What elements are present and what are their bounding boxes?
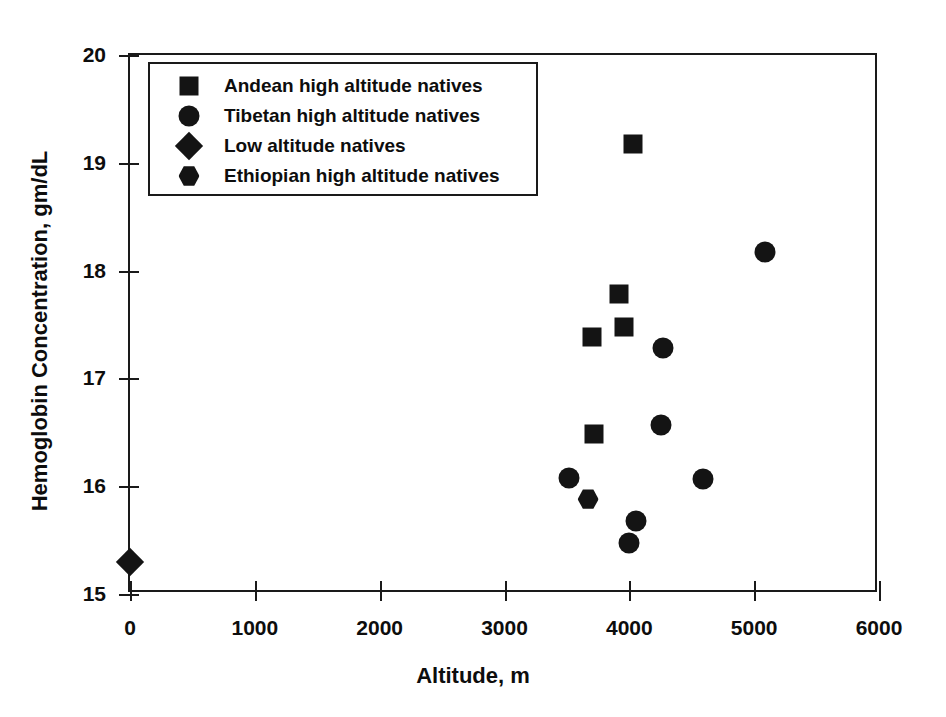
y-axis-tick-inner <box>130 378 139 380</box>
data-point-circle <box>653 338 674 359</box>
x-axis-tick-inner <box>505 581 507 590</box>
x-axis-tick-label: 2000 <box>356 616 403 640</box>
x-axis-title: Altitude, m <box>0 663 946 689</box>
y-axis-tick <box>119 594 130 596</box>
y-axis-tick-label: 17 <box>83 366 106 390</box>
legend-item[interactable]: Tibetan high altitude natives <box>150 101 536 131</box>
legend-marker-diamond-icon <box>176 133 202 159</box>
y-axis-tick-label: 15 <box>83 582 106 606</box>
legend-item[interactable]: Andean high altitude natives <box>150 71 536 101</box>
legend-marker-circle-icon <box>176 103 202 129</box>
y-axis-tick <box>119 378 130 380</box>
x-axis-tick-inner <box>754 581 756 590</box>
data-point-square <box>582 328 601 347</box>
data-point-circle <box>559 467 580 488</box>
y-axis-tick <box>119 163 130 165</box>
chart-legend: Andean high altitude nativesTibetan high… <box>148 62 538 196</box>
hexagon-icon <box>179 166 200 187</box>
x-axis-tick <box>754 590 756 601</box>
x-axis-tick <box>879 590 881 601</box>
legend-item-label: Andean high altitude natives <box>224 75 483 97</box>
x-axis-tick-label: 0 <box>124 616 136 640</box>
circle-icon <box>179 106 200 127</box>
data-point-square <box>624 135 643 154</box>
y-axis-tick-inner <box>130 55 139 57</box>
y-axis-tick-inner <box>130 163 139 165</box>
data-point-square <box>585 425 604 444</box>
y-axis-tick-inner <box>130 486 139 488</box>
x-axis-tick-inner <box>879 581 881 590</box>
data-point-circle <box>619 533 640 554</box>
data-point-circle <box>755 242 776 263</box>
x-axis-tick <box>130 590 132 601</box>
data-point-hexagon <box>578 489 599 510</box>
legend-item-label: Low altitude natives <box>224 135 406 157</box>
data-point-circle <box>625 510 646 531</box>
scatter-chart-figure: 1516171819200100020003000400050006000 He… <box>0 0 946 717</box>
y-axis-tick-label: 18 <box>83 259 106 283</box>
data-point-diamond <box>116 548 144 576</box>
x-axis-tick <box>629 590 631 601</box>
legend-item[interactable]: Low altitude natives <box>150 131 536 161</box>
y-axis-tick <box>119 486 130 488</box>
y-axis-tick <box>119 271 130 273</box>
data-point-square <box>609 285 628 304</box>
data-point-circle <box>650 414 671 435</box>
y-axis-tick-label: 20 <box>83 43 106 67</box>
legend-item-label: Tibetan high altitude natives <box>224 105 480 127</box>
y-axis-tick-label: 19 <box>83 151 106 175</box>
x-axis-tick-inner <box>130 581 132 590</box>
legend-marker-square-icon <box>176 73 202 99</box>
x-axis-tick-inner <box>255 581 257 590</box>
x-axis-tick <box>255 590 257 601</box>
legend-marker-hexagon-icon <box>176 163 202 189</box>
x-axis-tick <box>505 590 507 601</box>
y-axis-tick-label: 16 <box>83 474 106 498</box>
x-axis-tick-label: 6000 <box>856 616 903 640</box>
data-point-circle <box>692 468 713 489</box>
x-axis-tick-label: 5000 <box>731 616 778 640</box>
x-axis-tick-label: 4000 <box>606 616 653 640</box>
diamond-icon <box>175 132 203 160</box>
square-icon <box>180 77 199 96</box>
y-axis-tick <box>119 55 130 57</box>
x-axis-tick <box>380 590 382 601</box>
x-axis-tick-label: 1000 <box>231 616 278 640</box>
legend-item-label: Ethiopian high altitude natives <box>224 165 500 187</box>
x-axis-tick-inner <box>629 581 631 590</box>
y-axis-title: Hemoglobin Concentration, gm/dL <box>27 51 53 611</box>
legend-item[interactable]: Ethiopian high altitude natives <box>150 161 536 191</box>
y-axis-tick-inner <box>130 271 139 273</box>
data-point-square <box>614 317 633 336</box>
x-axis-tick-inner <box>380 581 382 590</box>
x-axis-tick-label: 3000 <box>481 616 528 640</box>
